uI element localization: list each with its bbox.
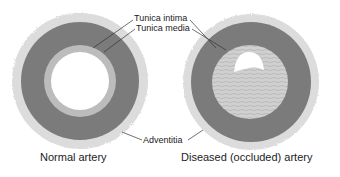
normal-artery — [12, 13, 148, 149]
caption-diseased-artery: Diseased (occluded) artery — [181, 152, 312, 163]
normal-lumen — [51, 52, 109, 110]
label-adventitia: Adventitia — [143, 136, 183, 145]
label-tunica-media: Tunica media — [136, 24, 190, 33]
label-tunica-intima: Tunica intima — [134, 14, 187, 23]
caption-normal-artery: Normal artery — [40, 152, 107, 163]
